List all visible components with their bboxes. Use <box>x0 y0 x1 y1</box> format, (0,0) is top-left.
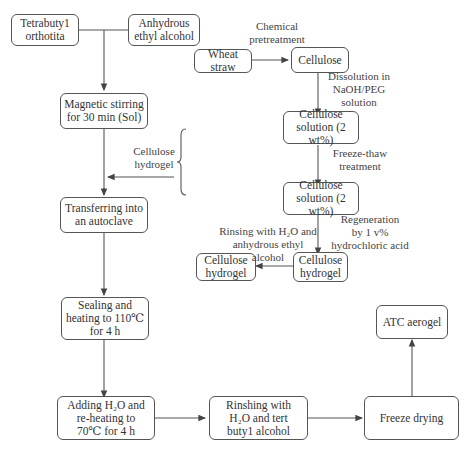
node-cellulose-solution-1: Cellulose solution (2 wt%) <box>283 111 359 144</box>
node-anhydrous-ethanol: Anhydrous ethyl alcohol <box>128 14 200 46</box>
label-cellulose-hydrogel-input: Cellulose hydrogel <box>124 145 184 171</box>
label-regeneration: Regeneration by 1 v% hydrochloric acid <box>322 213 418 252</box>
label-dissolution: Dissolution in NaOH/PEG solution <box>318 70 400 109</box>
node-cellulose-solution-2: Cellulose solution (2 wt%) <box>283 182 359 215</box>
label-freeze-thaw: Freeze-thaw treatment <box>322 147 398 173</box>
node-wheat-straw: Wheat straw <box>194 49 252 73</box>
label-rinsing-ethanol: Rinsing with H₂O and anhydrous ethyl alc… <box>218 225 318 264</box>
node-atc-aerogel: ATC aerogel <box>376 305 448 339</box>
node-adding-water-reheat: Adding H₂O and re-heating to 70℃ for 4 h <box>57 396 155 440</box>
node-tetrabutyl-orthotitanate: Tetrabuty1 orthotita <box>11 14 79 46</box>
node-magnetic-stirring: Magnetic stirring for 30 min (Sol) <box>60 93 148 129</box>
node-transfer-autoclave: Transferring into an autoclave <box>60 197 148 233</box>
node-rinsing-tert-butyl: Rinshing with H₂O and tert buty1 alcohol <box>209 396 308 440</box>
node-sealing-heating: Sealing and heating to 110℃ for 4 h <box>61 297 149 340</box>
node-freeze-drying: Freeze drying <box>364 396 459 440</box>
label-chemical-pretreatment: Chemical pretreatment <box>232 20 322 46</box>
